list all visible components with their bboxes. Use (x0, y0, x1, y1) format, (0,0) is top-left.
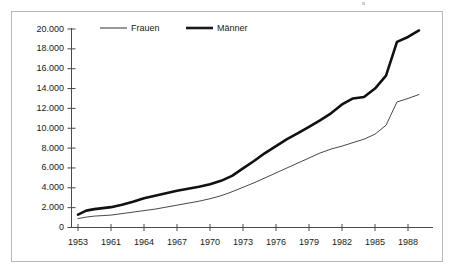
y-axis-tick-label: 12.000 (14, 103, 64, 113)
y-axis-tick-label: 10.000 (14, 123, 64, 133)
legend-label-frauen: Frauen (131, 23, 160, 33)
chart-figure: 02.0004.0006.0008.00010.00012.00014.0001… (0, 0, 456, 271)
y-axis-tick-label: 14.000 (14, 83, 64, 93)
series-line-frauen (78, 95, 419, 219)
y-axis-tick-label: 16.000 (14, 63, 64, 73)
chart-series-lines (78, 30, 419, 218)
y-axis-tick-label: 6.000 (14, 162, 64, 172)
y-axis-tick-label: 2.000 (14, 202, 64, 212)
legend-label-maenner: Männer (217, 23, 248, 33)
y-axis-tick-label: 18.000 (14, 43, 64, 53)
y-axis-tick-label: 20.000 (14, 24, 64, 34)
y-axis-tick-label: 8.000 (14, 143, 64, 153)
series-line-männer (78, 30, 419, 214)
x-axis-tick-label: 1988 (383, 237, 433, 247)
chart-plot-area (0, 0, 456, 271)
y-axis-tick-label: 4.000 (14, 182, 64, 192)
y-axis-tick-label: 0 (14, 222, 64, 232)
chart-axes (68, 28, 434, 231)
